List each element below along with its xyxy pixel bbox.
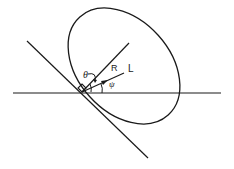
ellipse-curve bbox=[46, 0, 203, 146]
r-label: R bbox=[111, 64, 118, 73]
theta-label: θ bbox=[83, 70, 88, 80]
arrowhead-icon bbox=[101, 80, 108, 85]
tangent-line bbox=[27, 41, 148, 158]
diagram-svg bbox=[0, 0, 234, 169]
psi-arc bbox=[101, 84, 102, 93]
psi-label: ψ bbox=[109, 80, 115, 89]
theta-arc-arrow-icon bbox=[93, 79, 97, 83]
l-label: L bbox=[128, 64, 134, 74]
normal-line bbox=[82, 43, 129, 92]
diagram-canvas: θ R L ψ bbox=[0, 0, 234, 169]
